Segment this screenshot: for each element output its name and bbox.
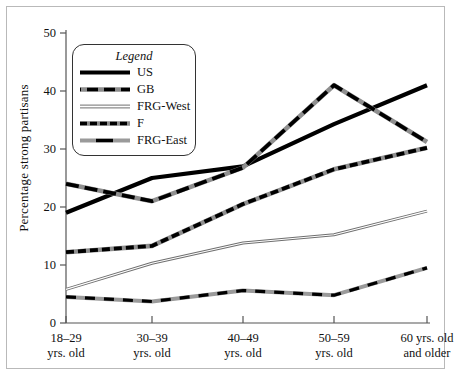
legend-title: Legend xyxy=(73,49,195,64)
y-tick-label: 20 xyxy=(30,200,56,215)
y-tick-label: 0 xyxy=(30,316,56,331)
x-axis-ticks xyxy=(66,316,427,323)
legend-label-gb: GB xyxy=(137,82,154,97)
legend-swatch-us xyxy=(80,68,130,77)
x-tick-line2: yrs. old xyxy=(18,346,114,361)
x-tick-line2: yrs. old xyxy=(195,346,291,361)
legend-swatch-frg-west xyxy=(80,102,130,111)
y-axis-ticks xyxy=(60,33,66,323)
legend-swatch-frg-east xyxy=(80,136,130,145)
y-tick-label: 30 xyxy=(30,142,56,157)
y-axis-title: Percentage strong partisans xyxy=(16,38,32,278)
legend-label-f: F xyxy=(137,116,144,131)
legend-item-f: F xyxy=(73,115,195,132)
legend-item-frg-west: FRG-West xyxy=(73,98,195,115)
x-tick-label: 30–39 yrs. old xyxy=(104,331,200,361)
legend-item-us: US xyxy=(73,64,195,81)
x-tick-line1: 60 yrs. old xyxy=(379,331,458,346)
legend-item-frg-east: FRG-East xyxy=(73,132,195,149)
y-tick-label: 10 xyxy=(30,258,56,273)
x-tick-label: 18–29 yrs. old xyxy=(18,331,114,361)
legend-swatch-gb xyxy=(80,85,130,94)
legend-label-frg-east: FRG-East xyxy=(137,133,187,148)
x-tick-label: 50–59 yrs. old xyxy=(286,331,382,361)
x-tick-line1: 18–29 xyxy=(18,331,114,346)
legend-label-us: US xyxy=(137,65,153,80)
legend-swatch-f xyxy=(80,119,130,128)
chart-legend: Legend US GB FRG-West xyxy=(72,44,196,156)
x-tick-line1: 40–49 xyxy=(195,331,291,346)
y-tick-label: 50 xyxy=(30,26,56,41)
x-tick-line1: 50–59 xyxy=(286,331,382,346)
x-tick-line2: yrs. old xyxy=(286,346,382,361)
x-tick-line2: yrs. old xyxy=(104,346,200,361)
legend-label-frg-west: FRG-West xyxy=(137,99,190,114)
x-tick-line1: 30–39 xyxy=(104,331,200,346)
x-tick-line2: and older xyxy=(379,346,458,361)
legend-item-gb: GB xyxy=(73,81,195,98)
x-tick-label: 60 yrs. old and older xyxy=(379,331,458,361)
x-tick-label: 40–49 yrs. old xyxy=(195,331,291,361)
y-tick-label: 40 xyxy=(30,84,56,99)
